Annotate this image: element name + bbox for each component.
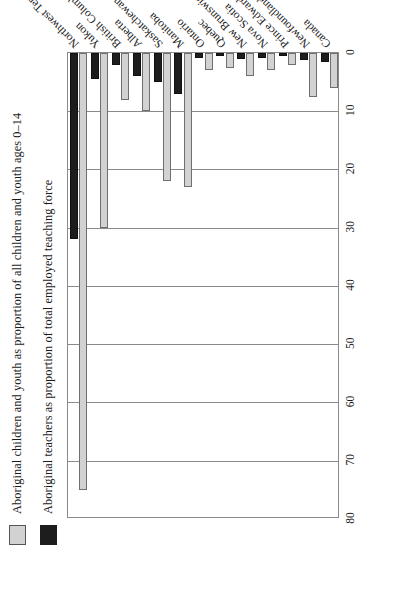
bar-teachers-ontario bbox=[195, 53, 203, 58]
bar-teachers-yukon bbox=[91, 53, 99, 79]
bar-teachers-saskatchewan bbox=[154, 53, 162, 82]
bar-teachers-manitoba bbox=[174, 53, 182, 94]
bar-teachers-new-brunswick bbox=[237, 53, 245, 59]
tick-label-40: 40 bbox=[344, 279, 356, 291]
bar-children-youth-canada bbox=[330, 53, 338, 88]
bar-children-youth-newfoundland bbox=[309, 53, 317, 97]
bar-teachers-quebec bbox=[216, 53, 224, 56]
bar-teachers-alberta bbox=[133, 53, 141, 76]
legend-label-children-youth: Aboriginal children and youth as proport… bbox=[11, 113, 23, 514]
tick-label-50: 50 bbox=[344, 338, 356, 350]
bar-children-youth-northwest-territories bbox=[79, 53, 87, 490]
bar-children-youth-british-columbia bbox=[121, 53, 129, 100]
gridline bbox=[68, 403, 338, 404]
bar-teachers-nova-scotia bbox=[258, 53, 266, 58]
bar-children-youth-quebec bbox=[226, 53, 234, 68]
legend-item-teachers: Aboriginal teachers as proportion of tot… bbox=[37, 113, 59, 545]
bar-children-youth-new-brunswick bbox=[246, 53, 254, 76]
gridline bbox=[68, 111, 338, 112]
plot-area bbox=[67, 52, 339, 518]
gridline bbox=[68, 228, 338, 229]
bar-teachers-british-columbia bbox=[112, 53, 120, 65]
light-gray-swatch bbox=[9, 525, 26, 545]
bar-children-youth-prince-edward-island bbox=[288, 53, 296, 65]
gridline bbox=[68, 170, 338, 171]
bar-teachers-canada bbox=[321, 53, 329, 62]
gridline bbox=[68, 286, 338, 287]
bar-children-youth-yukon bbox=[100, 53, 108, 228]
gridline bbox=[68, 344, 338, 345]
bar-children-youth-ontario bbox=[205, 53, 213, 70]
legend-label-teachers: Aboriginal teachers as proportion of tot… bbox=[42, 180, 54, 514]
gridline bbox=[68, 461, 338, 462]
bar-teachers-northwest-territories bbox=[70, 53, 78, 239]
bar-teachers-prince-edward-island bbox=[279, 53, 287, 56]
tick-label-0: 0 bbox=[344, 49, 356, 55]
chart-legend: Aboriginal children and youth as proport… bbox=[6, 113, 68, 545]
bar-children-youth-manitoba bbox=[184, 53, 192, 187]
bar-children-youth-nova-scotia bbox=[267, 53, 275, 70]
category-label-northwest-territories: Northwest Territories bbox=[3, 0, 82, 51]
legend-item-children-youth: Aboriginal children and youth as proport… bbox=[6, 113, 28, 545]
tick-label-70: 70 bbox=[344, 454, 356, 466]
bar-children-youth-alberta bbox=[142, 53, 150, 111]
black-swatch bbox=[40, 525, 57, 545]
tick-label-60: 60 bbox=[344, 396, 356, 408]
tick-label-30: 30 bbox=[344, 221, 356, 233]
chart-figure: Aboriginal children and youth as proport… bbox=[0, 0, 395, 599]
bar-teachers-newfoundland bbox=[300, 53, 308, 60]
bar-children-youth-saskatchewan bbox=[163, 53, 171, 181]
tick-label-10: 10 bbox=[344, 105, 356, 117]
tick-label-80: 80 bbox=[344, 512, 356, 524]
tick-label-20: 20 bbox=[344, 163, 356, 175]
